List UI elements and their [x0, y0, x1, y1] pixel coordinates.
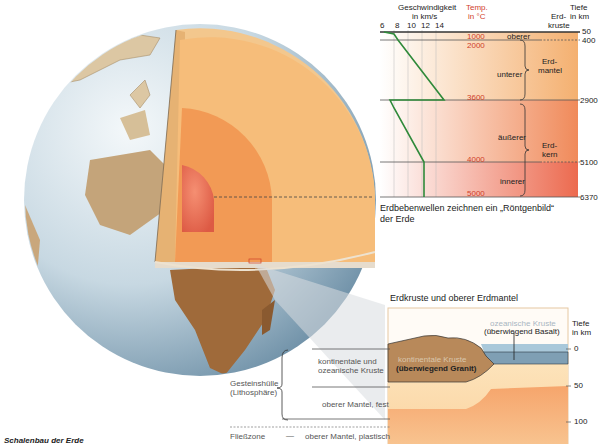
crust-header-line2: kruste	[548, 22, 570, 30]
earth-interior-profile: Geschwindigkeit in km/s 6 8 10 12 14 Tem…	[370, 0, 592, 240]
depth-label: 5100	[580, 159, 598, 167]
temperature-label: 2000	[467, 42, 485, 50]
profile-caption-line2: der Erde	[380, 215, 415, 224]
upper-mantle-solid-label: oberer Mantel, fest	[322, 401, 389, 409]
lithosphere-legend: Gesteinshülle (Lithosphäre) kontinentale…	[220, 340, 390, 444]
depth-label: 2900	[580, 97, 598, 105]
layer-mantle-lower: unterer	[497, 71, 522, 79]
crust-legend-line2: ozeanische Kruste	[318, 367, 384, 375]
mantle-label-line1: Erd-	[542, 58, 557, 66]
layer-core-outer: äußerer	[498, 134, 526, 142]
continental-crust-label: kontinentale Kruste	[398, 356, 467, 364]
crust-header-line1: Erd-	[551, 13, 566, 21]
lithosphere-label-line2: (Lithosphäre)	[230, 389, 277, 397]
temperature-label: 4000	[467, 156, 485, 164]
temperature-label: 3600	[467, 94, 485, 102]
detail-depth-tick: 0	[574, 345, 578, 353]
temp-header-line2: in °C	[468, 13, 485, 21]
profile-caption-line1: Erdbebenwellen zeichnen ein „Röntgenbild…	[380, 204, 554, 213]
crust-legend-line1: kontinentale und	[318, 358, 377, 366]
depth-header-line2: in km	[570, 13, 589, 21]
detail-depth-tick: 50	[574, 382, 583, 390]
depth-label: 400	[582, 37, 595, 45]
oceanic-crust-sublabel: (überwiegend Basalt)	[484, 328, 560, 336]
temp-header-line1: Temp.	[466, 4, 488, 12]
velocity-header-line2: in km/s	[412, 13, 437, 21]
crust-detail-diagram: Erdkruste und oberer Erdmantel ozeanisch…	[386, 294, 592, 444]
figure-caption: Schalenbau der Erde	[4, 437, 84, 444]
detail-depth-header-line2: in km	[572, 329, 591, 337]
core-label-line2: kern	[542, 151, 558, 159]
velocity-tick: 14	[435, 22, 444, 30]
flow-zone-label: Fließzone	[230, 433, 265, 441]
temperature-label: 1000	[467, 33, 485, 41]
temperature-label: 5000	[467, 190, 485, 198]
depth-header-line1: Tiefe	[570, 4, 588, 12]
mantle-label-line2: mantel	[538, 67, 562, 75]
core-label-line1: Erd-	[542, 142, 557, 150]
layer-core-inner: innerer	[500, 178, 525, 186]
velocity-header-line1: Geschwindigkeit	[398, 4, 456, 12]
velocity-tick: 10	[407, 22, 416, 30]
velocity-tick: 8	[395, 22, 399, 30]
lithosphere-label-line1: Gesteinshülle	[230, 380, 278, 388]
layer-mantle-upper: oberer	[507, 33, 530, 41]
upper-mantle-plastic-label: oberer Mantel, plastisch	[305, 433, 390, 441]
depth-label: 50	[582, 28, 591, 36]
continental-crust-sublabel: (überwiegend Granit)	[396, 365, 476, 373]
velocity-tick: 12	[421, 22, 430, 30]
depth-label: 6370	[580, 194, 598, 202]
velocity-tick: 6	[380, 22, 384, 30]
detail-depth-tick: 100	[574, 418, 587, 426]
detail-depth-header-line1: Tiefe	[572, 320, 590, 328]
flow-zone-dash: —	[286, 432, 294, 440]
